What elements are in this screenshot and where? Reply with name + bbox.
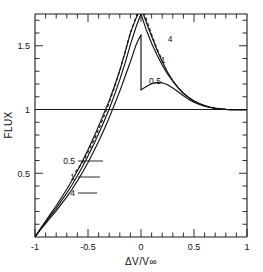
x-tick-labels: -1 -0.5 0 0.5 1: [31, 242, 250, 252]
figure-container: -1 -0.5 0 0.5 1 1.5 1 0.5 ΔV/V∞ FLUX 4 1…: [0, 0, 263, 272]
x-tick-label-1: -0.5: [80, 242, 96, 252]
x-tick-label-0: -1: [31, 242, 39, 252]
curve-1-post: [141, 14, 247, 110]
legend-label-4: 4: [70, 188, 75, 198]
flux-chart: -1 -0.5 0 0.5 1 1.5 1 0.5 ΔV/V∞ FLUX 4 1…: [0, 0, 263, 272]
y-tick-labels: 1.5 1 0.5: [17, 41, 30, 179]
curve-05: [35, 35, 141, 237]
curve-4: [35, 8, 141, 237]
right-axis-ticks: [239, 20, 247, 224]
x-axis-title: ΔV/V∞: [125, 256, 157, 267]
y-axis-ticks: [35, 20, 43, 224]
curve-dashed-envelope: [75, 4, 162, 172]
y-tick-label-0: 1.5: [17, 41, 30, 51]
curve-4-post: [141, 8, 247, 110]
curve-label-upper-4: 4: [168, 34, 173, 44]
legend-label-1: 1: [70, 172, 75, 182]
x-tick-label-2: 0: [138, 242, 143, 252]
curve-05-post: [141, 82, 247, 109]
y-tick-label-1: 1: [25, 105, 30, 115]
upper-curve-labels: 4 1 0.5: [149, 34, 173, 86]
legend-label-05: 0.5: [63, 156, 75, 166]
y-tick-label-2: 0.5: [17, 169, 30, 179]
curve-1: [35, 14, 141, 237]
x-axis-ticks: [35, 229, 247, 237]
curve-label-upper-1: 1: [161, 55, 166, 65]
x-tick-label-4: 1: [244, 242, 249, 252]
x-tick-label-3: 0.5: [188, 242, 201, 252]
curve-label-upper-05: 0.5: [149, 76, 161, 86]
y-axis-title: FLUX: [3, 111, 14, 138]
